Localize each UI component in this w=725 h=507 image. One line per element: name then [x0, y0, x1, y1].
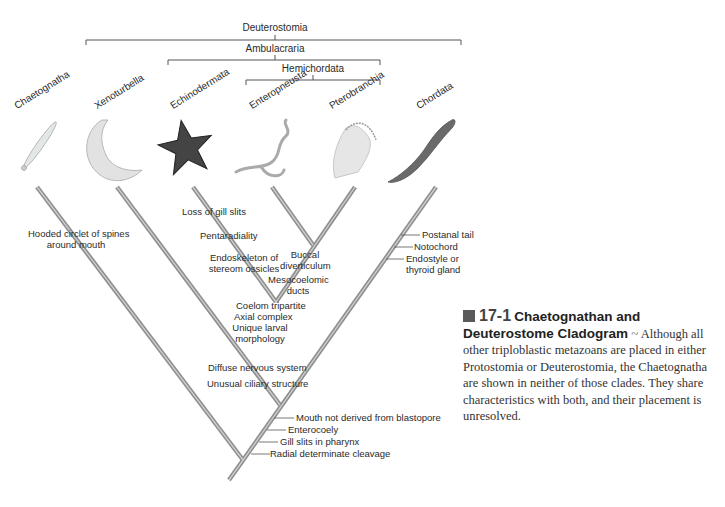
- pterobranch-illustration: [333, 123, 376, 178]
- character-postanal-tail: Postanal tail: [422, 229, 474, 240]
- character-diffuse-nervous-system: Diffuse nervous system: [208, 362, 307, 373]
- character-mouth-not-from-blastopore: Mouth not derived from blastopore: [296, 412, 441, 423]
- caption-separator: ~: [631, 326, 638, 341]
- acorn-worm-illustration: [236, 120, 288, 176]
- character-gill-slits-in-pharynx: Gill slits in pharynx: [280, 436, 359, 447]
- caption-square-icon: [463, 310, 475, 322]
- character-axial-complex: Axial complex: [234, 311, 293, 322]
- starfish-illustration: [155, 116, 217, 177]
- figure-caption: 17-1 Chaetognathan and Deuterostome Clad…: [463, 308, 725, 425]
- bracket-ambulacraria: [168, 55, 380, 65]
- figure-number: 17-1: [479, 307, 511, 324]
- character-loss-of-gill-slits: Loss of gill slits: [182, 206, 246, 217]
- character-coelom-tripartite: Coelom tripartite: [236, 300, 306, 311]
- character-enterocoely: Enterocoely: [288, 424, 338, 435]
- character-notochord: Notochord: [414, 241, 458, 252]
- character-pentaradiality: Pentaradiality: [200, 230, 258, 241]
- character-endoskeleton: Endoskeleton of stereom ossicles: [208, 252, 280, 274]
- clade-label-hemichordata: Hemichordata: [282, 63, 344, 74]
- arrow-worm-illustration: [20, 120, 59, 172]
- xenoturbella-illustration: [87, 120, 142, 181]
- character-unusual-ciliary-structure: Unusual ciliary structure: [207, 378, 308, 389]
- clade-label-deuterostomia: Deuterostomia: [242, 22, 307, 33]
- character-mesocoelomic-ducts: Mesocoelomic ducts: [268, 274, 328, 296]
- clade-label-ambulacraria: Ambulacraria: [246, 43, 305, 54]
- cladogram-tree: [0, 0, 725, 507]
- character-buccal-diverticulum: Buccal diverticulum: [280, 249, 330, 271]
- character-endostyle: Endostyle or thyroid gland: [406, 253, 460, 275]
- character-chaetognatha: Hooded circlet of spines around mouth: [28, 228, 124, 250]
- character-unique-larval-morphology: Unique larval morphology: [230, 322, 290, 344]
- lancelet-illustration: [388, 120, 455, 183]
- character-radial-determinate-cleavage: Radial determinate cleavage: [270, 448, 390, 459]
